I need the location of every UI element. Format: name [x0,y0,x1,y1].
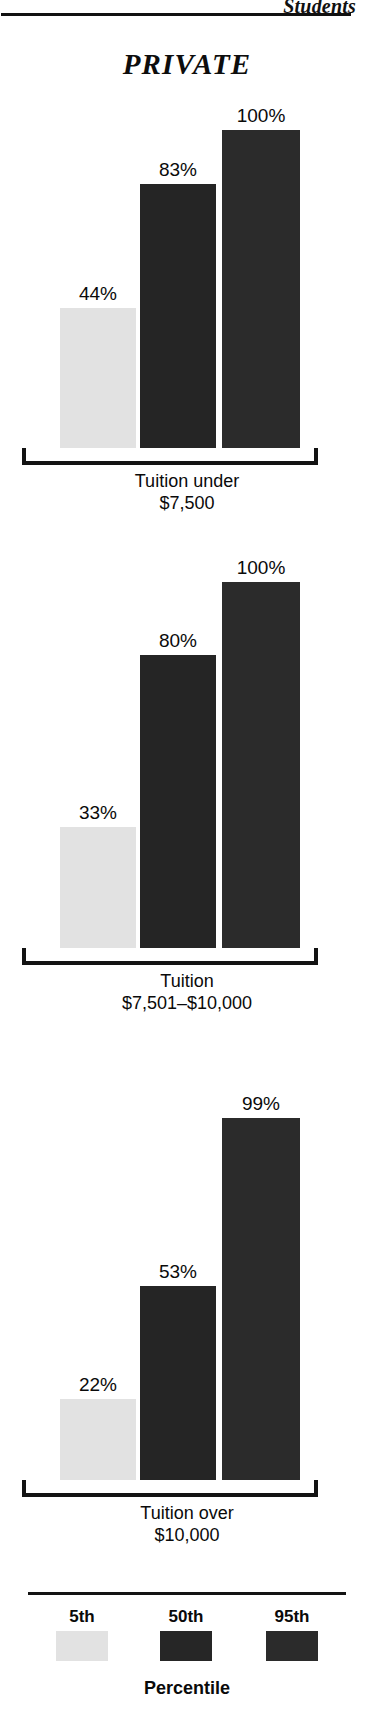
axis-tick-right [314,448,318,465]
chart-tuition-7501-10000: 33%80%100% Tuition $7,501–$10,000 [0,548,374,948]
bar-95th: 100% [222,96,300,448]
legend-swatch [266,1631,318,1661]
bar-5th: 22% [60,1080,136,1480]
legend-item-95th: 95th [254,1608,330,1661]
bar-5th: 44% [60,96,136,448]
bar-value-label: 99% [242,1094,280,1113]
axis-tick-right [314,1480,318,1497]
axis-caption: Tuition over $10,000 [0,1503,374,1547]
bar-value-label: 53% [159,1262,197,1281]
caption-line-2: $7,500 [0,493,374,515]
axis-bracket [22,448,318,465]
axis-tick-left [22,948,26,965]
axis-baseline [22,1493,318,1497]
legend-divider [28,1592,346,1595]
caption-line-1: Tuition under [0,471,374,493]
bar-50th: 83% [140,96,216,448]
caption-line-1: Tuition [0,971,374,993]
bar-95th: 99% [222,1080,300,1480]
bar-95th: 100% [222,548,300,948]
bar-rect [222,130,300,448]
axis-tick-left [22,1480,26,1497]
legend-title: Percentile [0,1678,374,1699]
legend-item-label: 5th [44,1608,120,1625]
bar-rect [140,1286,216,1480]
bar-rect [140,655,216,948]
axis-caption: Tuition $7,501–$10,000 [0,971,374,1015]
bar-rect [60,827,136,948]
legend-item-5th: 5th [44,1608,120,1661]
bar-5th: 33% [60,548,136,948]
bar-rect [60,1399,136,1480]
bar-50th: 53% [140,1080,216,1480]
plot-area: 44%83%100% [0,96,374,448]
page-title: PRIVATE [0,48,374,81]
bar-value-label: 100% [237,106,286,125]
legend-item-label: 95th [254,1608,330,1625]
bar-value-label: 33% [79,803,117,822]
bar-rect [60,308,136,448]
bar-rect [140,184,216,448]
header-rule [1,13,351,16]
plot-area: 22%53%99% [0,1080,374,1480]
chart-tuition-under-7500: 44%83%100% Tuition under $7,500 [0,96,374,448]
bar-rect [222,582,300,948]
chart-tuition-over-10000: 22%53%99% Tuition over $10,000 [0,1080,374,1480]
bar-50th: 80% [140,548,216,948]
legend-swatch [56,1631,108,1661]
axis-bracket [22,1480,318,1497]
plot-area: 33%80%100% [0,548,374,948]
bar-value-label: 83% [159,160,197,179]
bar-value-label: 22% [79,1375,117,1394]
bar-value-label: 44% [79,284,117,303]
axis-bracket [22,948,318,965]
caption-line-2: $10,000 [0,1525,374,1547]
bar-value-label: 80% [159,631,197,650]
axis-baseline [22,461,318,465]
caption-line-1: Tuition over [0,1503,374,1525]
legend-item-label: 50th [148,1608,224,1625]
legend-item-50th: 50th [148,1608,224,1661]
legend: 5th50th95th [0,1608,374,1678]
bar-value-label: 100% [237,558,286,577]
caption-line-2: $7,501–$10,000 [0,993,374,1015]
axis-baseline [22,961,318,965]
axis-caption: Tuition under $7,500 [0,471,374,515]
legend-swatch [160,1631,212,1661]
axis-tick-left [22,448,26,465]
axis-tick-right [314,948,318,965]
bar-rect [222,1118,300,1480]
